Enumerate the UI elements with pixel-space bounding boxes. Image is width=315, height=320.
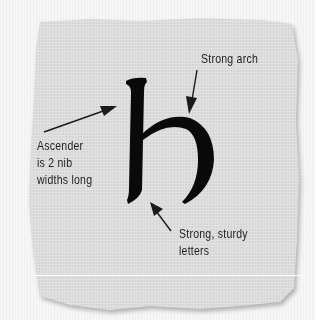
label-line: Strong arch — [201, 50, 258, 67]
label-strong-arch: Strong arch — [201, 50, 258, 67]
label-line: letters — [179, 242, 248, 259]
label-line: is 2 nib — [37, 154, 92, 171]
label-line: Strong, sturdy — [179, 225, 248, 242]
label-sturdy-letters: Strong, sturdy letters — [179, 225, 248, 259]
label-ascender: Ascender is 2 nib widths long — [37, 137, 92, 188]
label-line: widths long — [37, 171, 92, 188]
scan-line-artifact — [32, 275, 304, 276]
label-line: Ascender — [37, 137, 92, 154]
